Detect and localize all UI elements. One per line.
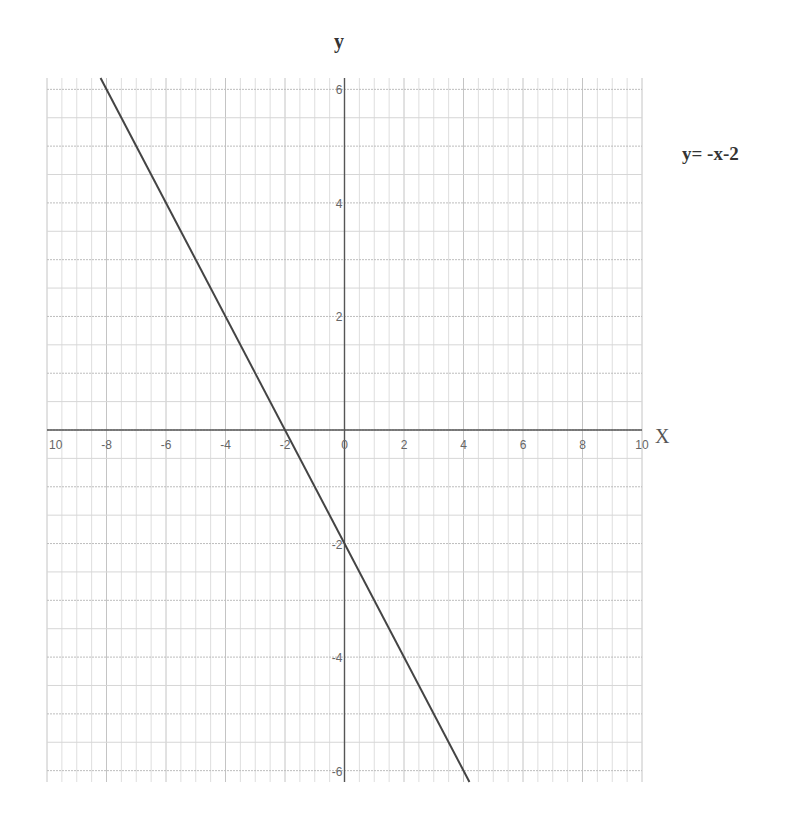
x-tick-label: 2 xyxy=(401,438,408,452)
y-tick-label: 4 xyxy=(336,197,343,211)
x-tick-label: 10 xyxy=(49,438,63,452)
y-tick-label: -2 xyxy=(332,538,343,552)
x-tick-label: 6 xyxy=(520,438,527,452)
x-tick-label: -8 xyxy=(101,438,112,452)
y-axis-label: y xyxy=(334,30,344,53)
equation-label: y= -x-2 xyxy=(682,143,739,165)
y-tick-label: 6 xyxy=(336,83,343,97)
x-axis-label: X xyxy=(655,425,669,448)
x-tick-label: 0 xyxy=(341,438,348,452)
x-tick-label: 4 xyxy=(460,438,467,452)
y-tick-label: 2 xyxy=(336,310,343,324)
x-tick-label: -4 xyxy=(220,438,231,452)
tick-labels: 10-8-6-4-20246810642-2-4-6 xyxy=(49,83,649,778)
x-tick-label: -2 xyxy=(280,438,291,452)
x-tick-label: 8 xyxy=(579,438,586,452)
y-tick-label: -6 xyxy=(332,765,343,779)
x-tick-label: -6 xyxy=(161,438,172,452)
coordinate-plane: 10-8-6-4-20246810642-2-4-6 xyxy=(0,0,790,830)
x-tick-label: 10 xyxy=(635,438,649,452)
y-tick-label: -4 xyxy=(332,651,343,665)
